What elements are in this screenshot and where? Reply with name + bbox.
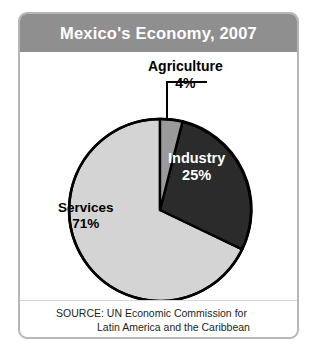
chart-frame: Mexico's Economy, 2007 Agriculture 4% In…	[18, 12, 299, 339]
pie-label-industry-name: Industry	[168, 150, 225, 166]
pie-label-industry-value: 25%	[168, 167, 225, 184]
pie-chart-plot-area: Agriculture 4% Industry 25% Services 71%	[20, 52, 297, 300]
source-note: SOURCE: UN Economic Commission for Latin…	[20, 306, 297, 334]
title-banner: Mexico's Economy, 2007	[20, 14, 297, 52]
pie-label-services-value: 71%	[58, 216, 114, 232]
page-title: Mexico's Economy, 2007	[60, 24, 257, 43]
pie-label-agriculture: Agriculture 4%	[148, 58, 223, 91]
pie-label-services-name: Services	[58, 200, 114, 215]
pie-label-agriculture-name: Agriculture	[148, 58, 223, 74]
pie-label-services: Services 71%	[58, 200, 114, 232]
pie-label-industry: Industry 25%	[168, 150, 225, 184]
source-line-1: SOURCE: UN Economic Commission for	[20, 306, 297, 320]
source-line-2: Latin America and the Caribbean	[20, 320, 297, 334]
pie-label-agriculture-value: 4%	[148, 75, 223, 92]
source-divider	[20, 300, 297, 301]
